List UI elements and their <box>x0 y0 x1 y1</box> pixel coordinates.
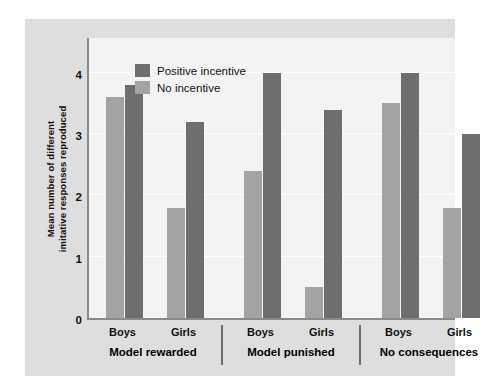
x-group-label-0: Model rewarded <box>109 346 197 358</box>
x-tick-label-boys-1: Boys <box>247 326 274 338</box>
legend-swatch-icon-positive-incentive <box>135 64 150 77</box>
legend-label-positive-incentive: Positive incentive <box>157 65 246 77</box>
x-tick-label-boys-2: Boys <box>385 326 412 338</box>
bar-no-incentive-0-0 <box>106 97 124 318</box>
bar-positive-incentive-0-1 <box>186 122 204 318</box>
group-separator-0 <box>221 325 223 365</box>
legend-item-positive-incentive: Positive incentive <box>135 64 246 77</box>
x-tick-label-girls-1: Girls <box>309 326 334 338</box>
bar-no-incentive-2-0 <box>382 103 400 318</box>
y-axis-tick-labels: 01234 <box>62 0 82 391</box>
x-group-label-2: No consequences <box>380 346 478 358</box>
group-separator-1 <box>359 325 361 365</box>
y-tick-label-3: 3 <box>64 130 82 142</box>
bar-positive-incentive-1-1 <box>324 110 342 318</box>
bar-positive-incentive-2-1 <box>462 134 480 318</box>
bar-positive-incentive-2-0 <box>401 73 419 318</box>
bar-positive-incentive-0-0 <box>125 85 143 318</box>
bar-no-incentive-1-1 <box>305 287 323 318</box>
y-tick-label-0: 0 <box>64 314 82 326</box>
legend-swatch-icon-no-incentive <box>135 81 150 94</box>
legend-item-no-incentive: No incentive <box>135 81 246 94</box>
x-axis-labels: BoysGirlsBoysGirlsBoysGirlsModel rewarde… <box>87 322 455 376</box>
y-tick-label-4: 4 <box>64 69 82 81</box>
y-axis-title-line-1: Mean number of different <box>45 121 57 237</box>
bar-no-incentive-2-1 <box>443 208 461 318</box>
x-tick-label-girls-2: Girls <box>447 326 472 338</box>
y-tick-label-1: 1 <box>64 253 82 265</box>
bar-no-incentive-1-0 <box>244 171 262 318</box>
bar-no-incentive-0-1 <box>167 208 185 318</box>
x-tick-label-boys-0: Boys <box>109 326 136 338</box>
x-tick-label-girls-0: Girls <box>171 326 196 338</box>
bar-positive-incentive-1-0 <box>263 73 281 318</box>
y-tick-label-2: 2 <box>64 191 82 203</box>
chart-legend: Positive incentive No incentive <box>135 64 246 94</box>
x-group-label-1: Model punished <box>247 346 335 358</box>
legend-label-no-incentive: No incentive <box>157 82 220 94</box>
